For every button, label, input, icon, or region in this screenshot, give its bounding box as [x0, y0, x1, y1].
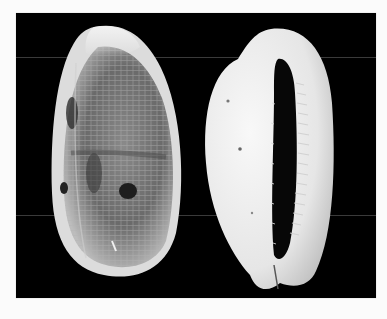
cowrie-shell-dorsal — [52, 26, 182, 277]
photo-frame — [0, 0, 387, 319]
cowrie-shell-ventral — [205, 29, 334, 289]
photo-black-background — [16, 13, 376, 298]
shells-illustration — [16, 13, 376, 298]
